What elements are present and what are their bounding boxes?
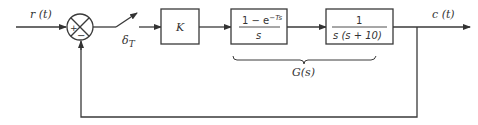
input-label: r (t) (30, 8, 52, 21)
block-diagram: r (t) + − δT K 1 − e−Ts s 1 s (s + 10) c… (0, 0, 478, 125)
plant-numerator: 1 (356, 15, 362, 26)
output-label: c (t) (432, 8, 455, 21)
summing-junction: + − (67, 14, 93, 41)
zoh-denominator: s (256, 30, 261, 41)
plant-denominator: s (s + 10) (333, 30, 382, 41)
minus-sign: − (77, 30, 85, 41)
sampler-switch (116, 13, 137, 27)
g-label: G(s) (292, 66, 315, 79)
g-brace (233, 56, 376, 64)
sampler-label: δT (122, 34, 136, 49)
gain-label: K (175, 21, 185, 34)
